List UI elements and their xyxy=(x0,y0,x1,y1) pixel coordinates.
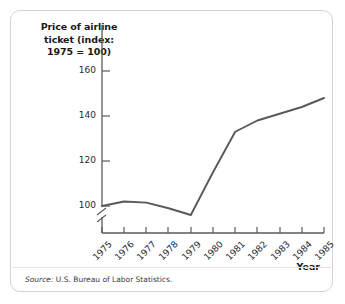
source-divider xyxy=(12,267,331,268)
price-index-line xyxy=(102,98,324,215)
y-tick-label-120: 120 xyxy=(66,155,96,165)
figure-container: Price of airline ticket (index: 1975 = 1… xyxy=(10,10,333,292)
source-keyword: Source: xyxy=(25,275,53,284)
y-tick-label-140: 140 xyxy=(66,110,96,120)
y-tick-label-160: 160 xyxy=(66,65,96,75)
y-tick-label-100: 100 xyxy=(66,200,96,210)
source-note: Source: U.S. Bureau of Labor Statistics. xyxy=(25,275,172,284)
source-text: U.S. Bureau of Labor Statistics. xyxy=(53,275,172,284)
